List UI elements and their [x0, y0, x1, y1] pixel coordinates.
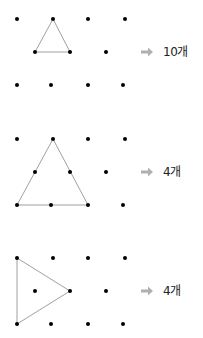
grid-dot	[86, 137, 90, 141]
grid-dot	[123, 137, 127, 141]
arrow-right-icon	[141, 48, 153, 57]
grid-dot	[15, 322, 19, 326]
grid-dot	[123, 17, 127, 21]
grid-dot	[51, 137, 55, 141]
grid-dot	[51, 17, 55, 21]
grid-dot	[15, 203, 19, 207]
grid-dot	[86, 256, 90, 260]
grid-dot	[15, 83, 19, 87]
grid-dot	[49, 203, 53, 207]
triangle-shape	[35, 19, 70, 52]
problem-3	[15, 256, 153, 326]
grid-dot	[121, 203, 125, 207]
grid-dot	[86, 83, 90, 87]
grid-dot	[15, 17, 19, 21]
grid-dot	[33, 170, 37, 174]
grid-dot	[68, 289, 72, 293]
grid-dot	[104, 170, 108, 174]
grid-dot	[86, 322, 90, 326]
grid-dot	[51, 256, 55, 260]
grid-dot	[104, 50, 108, 54]
problem-2	[15, 137, 153, 207]
answer-label-2: 4개	[163, 165, 181, 179]
grid-dot	[33, 50, 37, 54]
grid-dot	[68, 170, 72, 174]
grid-dot	[49, 83, 53, 87]
grid-dot	[15, 137, 19, 141]
grid-dot	[15, 256, 19, 260]
grid-dot	[123, 256, 127, 260]
grid-dot	[68, 50, 72, 54]
grid-dot	[121, 83, 125, 87]
grid-dot	[86, 203, 90, 207]
arrow-right-icon	[141, 287, 153, 296]
grid-dot	[33, 289, 37, 293]
triangle-shape	[17, 139, 88, 205]
answer-label-3: 4개	[163, 284, 181, 298]
grid-dot	[86, 17, 90, 21]
grid-dot	[49, 322, 53, 326]
problem-1	[15, 17, 153, 87]
arrow-right-icon	[141, 168, 153, 177]
grid-dot	[104, 289, 108, 293]
triangle-shape	[17, 258, 70, 324]
grid-dot	[121, 322, 125, 326]
answer-label-1: 10개	[163, 45, 188, 59]
